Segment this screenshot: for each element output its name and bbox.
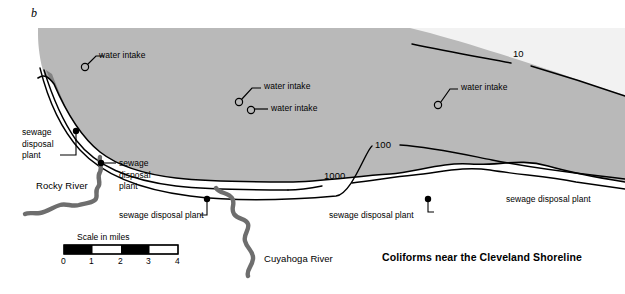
sewage-plant-label: sewage disposal plant <box>506 194 591 205</box>
water-intake-label: water intake <box>271 103 317 114</box>
scale-tick-4: 4 <box>175 256 180 267</box>
sewage-plant-label: sewage disposal plant <box>119 158 151 193</box>
sewage-plant-icon <box>73 128 79 134</box>
water-intake-label: water intake <box>264 81 310 92</box>
contour-label-100: 100 <box>375 140 391 151</box>
scale-bar <box>64 245 178 254</box>
sewage-plant-label: sewage disposal plant <box>119 210 204 221</box>
scale-tick-1: 1 <box>89 256 94 267</box>
figure-panel-b: b water intake water intake water intake… <box>0 0 625 294</box>
scale-segment-2-3 <box>121 245 150 254</box>
scale-bar-caption: Scale in miles <box>77 232 129 242</box>
panel-letter: b <box>31 6 37 21</box>
sewage-plant-label: sewage disposal plant <box>22 127 54 162</box>
scale-tick-2: 2 <box>118 256 123 267</box>
scale-segment-0-1 <box>64 245 93 254</box>
water-intake-label: water intake <box>99 50 145 61</box>
scale-tick-3: 3 <box>146 256 151 267</box>
river-label-rocky: Rocky River <box>36 181 88 192</box>
sewage-plant-icon <box>425 196 431 202</box>
coliform-contour-map <box>0 0 625 294</box>
river-label-cuyahoga: Cuyahoga River <box>264 254 333 265</box>
sewage-plant-icon <box>204 196 210 202</box>
water-intake-label: water intake <box>461 82 507 93</box>
scale-tick-0: 0 <box>61 256 66 267</box>
figure-title: Coliforms near the Cleveland Shoreline <box>382 251 582 263</box>
contour-label-1000: 1000 <box>324 171 345 182</box>
contour-label-10: 10 <box>513 49 524 60</box>
sewage-plant-label: sewage disposal plant <box>329 210 414 221</box>
sewage-plant-icon <box>98 160 104 166</box>
